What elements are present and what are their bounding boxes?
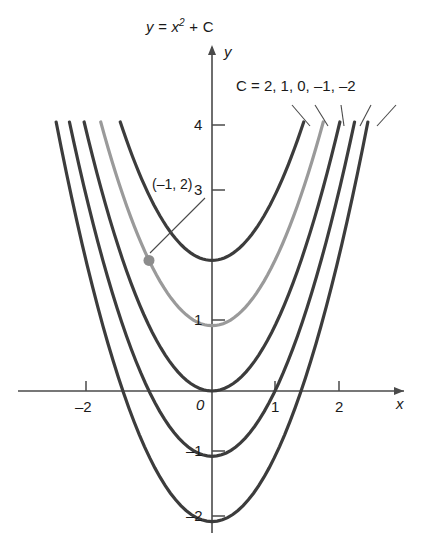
y-axis-label: y bbox=[224, 44, 232, 59]
figure-canvas: y = x2 + C y x C = 2, 1, 0, –1, –2 (–1, … bbox=[0, 0, 429, 560]
y-axis-arrowhead bbox=[208, 45, 216, 55]
y-tick-label-neg2: –2 bbox=[186, 508, 203, 523]
leader-line-c-0 bbox=[341, 105, 344, 126]
point-marker-dot bbox=[144, 255, 155, 266]
parabola-family-plot bbox=[0, 0, 429, 560]
title-tail: + C bbox=[185, 18, 214, 35]
axes-group bbox=[18, 45, 404, 533]
leader-line-c-2 bbox=[292, 105, 310, 126]
y-tick-label-4: 4 bbox=[194, 117, 202, 132]
point-label: (–1, 2) bbox=[152, 177, 192, 191]
x-axis-arrowhead bbox=[394, 387, 404, 395]
leader-line-c-neg2 bbox=[377, 105, 396, 126]
x-tick-label-1: 1 bbox=[271, 399, 279, 414]
family-leader-lines bbox=[292, 105, 396, 126]
figure-title: y = x2 + C bbox=[146, 18, 214, 34]
y-tick-label-3: 3 bbox=[194, 182, 202, 197]
title-main: y = x bbox=[146, 18, 179, 35]
x-tick-label-2: 2 bbox=[335, 399, 343, 414]
origin-label: 0 bbox=[196, 397, 204, 412]
x-tick-label-neg2: –2 bbox=[75, 399, 92, 414]
y-tick-label-neg1: –1 bbox=[186, 443, 203, 458]
leader-line-c-neg1 bbox=[360, 105, 371, 126]
family-label: C = 2, 1, 0, –1, –2 bbox=[236, 78, 356, 93]
y-tick-label-1: 1 bbox=[194, 312, 202, 327]
point-leader-line bbox=[150, 198, 205, 253]
x-axis-label: x bbox=[396, 396, 404, 411]
